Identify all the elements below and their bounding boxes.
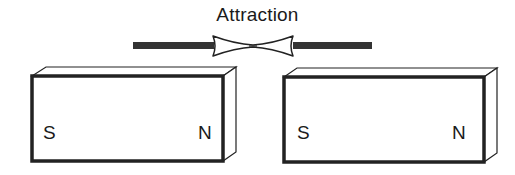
left-magnet-south-pole-label: S — [43, 122, 56, 144]
left-magnet — [32, 67, 236, 161]
left-magnet-north-pole-label: N — [198, 122, 212, 144]
right-magnet — [284, 68, 497, 162]
right-magnet-north-pole-label: N — [452, 122, 466, 144]
left-attraction-bar — [133, 42, 214, 49]
right-attraction-bar — [293, 42, 372, 49]
attraction-diagram: Attraction S N S N — [0, 0, 515, 175]
diagram-graphics — [0, 0, 515, 175]
right-magnet-south-pole-label: S — [297, 122, 310, 144]
